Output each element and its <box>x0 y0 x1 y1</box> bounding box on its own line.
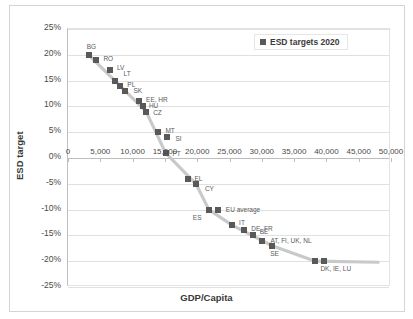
data-marker[interactable] <box>93 57 99 63</box>
y-tick-label: -10% <box>19 204 61 213</box>
data-marker[interactable] <box>321 258 327 264</box>
chart-legend: ESD targets 2020 <box>254 34 348 50</box>
data-point-label: CZ <box>153 109 162 116</box>
data-point-label: EL <box>195 175 203 182</box>
data-marker[interactable] <box>229 222 235 228</box>
data-point-label: EU average <box>226 206 260 213</box>
data-point-label: LT <box>124 70 131 77</box>
x-tick-mark <box>100 158 101 162</box>
data-point-label: RO <box>103 55 113 62</box>
data-point-label: CY <box>205 185 214 192</box>
gridline <box>68 261 389 262</box>
data-marker[interactable] <box>164 134 170 140</box>
data-marker[interactable] <box>215 207 221 213</box>
gridline <box>68 29 389 30</box>
y-tick-label: 5% <box>19 126 61 135</box>
x-tick-mark <box>391 158 392 162</box>
data-point-label: BG <box>87 43 96 50</box>
data-point-label: IT <box>239 219 245 226</box>
y-tick-label: 20% <box>19 49 61 58</box>
y-tick-label: 0% <box>19 152 61 161</box>
esd-targets-chart: BGROLVLTPLSKEE, HRHUCZMTSIPTELCYESEU ave… <box>0 0 413 319</box>
data-point-label: BE <box>260 228 269 235</box>
x-tick-mark <box>326 158 327 162</box>
y-tick-label: 15% <box>19 75 61 84</box>
y-tick-label: -25% <box>19 281 61 290</box>
y-tick-label: -5% <box>19 178 61 187</box>
data-point-label: SE <box>270 250 279 257</box>
data-marker[interactable] <box>185 176 191 182</box>
x-tick-mark <box>230 158 231 162</box>
data-point-label: SI <box>175 135 181 142</box>
x-tick-mark <box>68 158 69 162</box>
y-tick-label: -15% <box>19 229 61 238</box>
plot-area: BGROLVLTPLSKEE, HRHUCZMTSIPTELCYESEU ave… <box>67 28 390 286</box>
data-point-label: ES <box>193 214 202 221</box>
data-marker[interactable] <box>206 207 212 213</box>
x-axis-title: GDP/Capita <box>0 292 413 303</box>
gridline <box>68 106 389 107</box>
data-marker[interactable] <box>107 67 113 73</box>
data-marker[interactable] <box>155 129 161 135</box>
data-marker[interactable] <box>259 238 265 244</box>
data-marker[interactable] <box>143 109 149 115</box>
gridline <box>68 184 389 185</box>
y-tick-label: 25% <box>19 23 61 32</box>
chart-frame: BGROLVLTPLSKEE, HRHUCZMTSIPTELCYESEU ave… <box>9 5 405 312</box>
data-marker[interactable] <box>193 181 199 187</box>
data-marker[interactable] <box>241 227 247 233</box>
data-marker[interactable] <box>312 258 318 264</box>
data-marker[interactable] <box>122 88 128 94</box>
data-point-label: AT, FI, UK, NL <box>270 237 311 244</box>
x-tick-mark <box>133 158 134 162</box>
data-marker[interactable] <box>86 52 92 58</box>
x-tick-mark <box>165 158 166 162</box>
x-tick-mark <box>294 158 295 162</box>
gridline <box>68 235 389 236</box>
y-axis-title: ESD target <box>14 131 25 180</box>
x-tick-mark <box>197 158 198 162</box>
legend-label: ESD targets 2020 <box>270 37 339 47</box>
gridline <box>68 132 389 133</box>
x-tick-label: 50,000 <box>371 147 411 156</box>
gridline <box>68 55 389 56</box>
gridline <box>68 158 389 159</box>
data-point-label: MT <box>165 127 174 134</box>
x-tick-mark <box>359 158 360 162</box>
y-tick-label: -20% <box>19 255 61 264</box>
y-tick-label: 10% <box>19 100 61 109</box>
legend-swatch-icon <box>260 39 266 45</box>
data-point-label: SK <box>133 87 142 94</box>
data-marker[interactable] <box>269 243 275 249</box>
data-point-label: DK, IE, LU <box>320 265 351 272</box>
gridline <box>68 287 389 288</box>
data-marker[interactable] <box>250 232 256 238</box>
x-tick-mark <box>262 158 263 162</box>
